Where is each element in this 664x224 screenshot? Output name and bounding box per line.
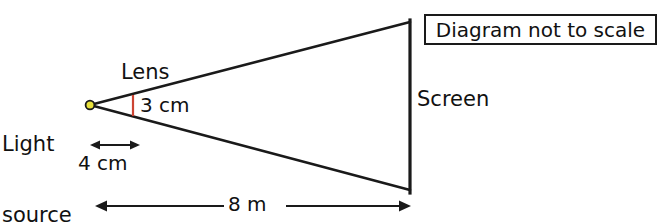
source-to-screen-measurement-label: 8 m: [228, 193, 267, 215]
source-to-lens-measurement-label: 4 cm: [78, 152, 128, 174]
light-source-label-line1: Light: [2, 133, 72, 157]
lens-height-measurement-label: 3 cm: [140, 94, 190, 116]
not-to-scale-notice-text: Diagram not to scale: [436, 20, 645, 40]
light-source-label: Light source: [2, 86, 72, 224]
optics-diagram: Light source Lens 3 cm 4 cm 8 m Screen D…: [0, 0, 664, 224]
light-source-dot-icon: [86, 101, 95, 110]
lens-label: Lens: [121, 61, 170, 85]
dimension-4cm-arrow-icon: [90, 141, 140, 150]
screen-label: Screen: [417, 88, 489, 112]
light-source-label-line2: source: [2, 204, 72, 224]
ray-line-lower-icon: [90, 105, 410, 190]
not-to-scale-notice: Diagram not to scale: [424, 14, 657, 45]
